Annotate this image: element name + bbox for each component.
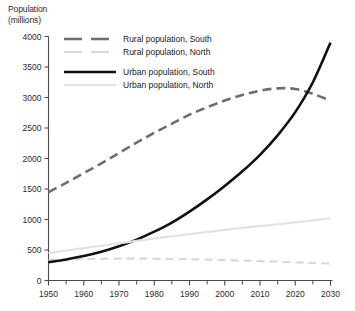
x-tick-label: 1950 [39, 289, 58, 299]
y-tick-label: 1000 [23, 215, 42, 225]
x-axis-ticks [49, 281, 331, 286]
y-tick-label: 500 [27, 245, 41, 255]
y-tick-label: 1500 [23, 184, 42, 194]
legend-label-3: Urban population, North [123, 80, 214, 90]
y-axis-ticks [45, 37, 49, 281]
legend-label-2: Urban population, South [123, 67, 215, 77]
y-tick-label: 2500 [23, 123, 42, 133]
y-tick-label: 2000 [23, 154, 42, 164]
y-axis-group: 05001000150020002500300035004000 [23, 32, 49, 286]
x-axis-tick-labels: 195019601970198019902000201020202030 [39, 289, 340, 299]
y-tick-label: 4000 [23, 32, 42, 42]
x-tick-label: 1980 [145, 289, 164, 299]
legend-label-1: Rural population, North [123, 47, 211, 57]
chart-container: Population (millions) 050010001500200025… [0, 0, 355, 311]
x-tick-label: 1960 [74, 289, 93, 299]
series-line-1 [49, 259, 331, 264]
y-tick-label: 3000 [23, 93, 42, 103]
x-axis-group: 195019601970198019902000201020202030 [39, 281, 340, 299]
y-tick-label: 3500 [23, 62, 42, 72]
y-axis-tick-labels: 05001000150020002500300035004000 [23, 32, 42, 286]
x-tick-label: 2030 [321, 289, 340, 299]
series-line-0 [49, 88, 331, 192]
series-line-3 [49, 218, 331, 253]
x-tick-label: 2000 [215, 289, 234, 299]
line-chart-svg: 05001000150020002500300035004000 1950196… [0, 0, 355, 311]
x-tick-label: 1970 [110, 289, 129, 299]
chart-legend: Rural population, SouthRural population,… [64, 34, 215, 90]
y-tick-label: 0 [37, 276, 42, 286]
legend-label-0: Rural population, South [123, 34, 212, 44]
x-tick-label: 2010 [251, 289, 270, 299]
x-tick-label: 2020 [286, 289, 305, 299]
x-tick-label: 1990 [180, 289, 199, 299]
